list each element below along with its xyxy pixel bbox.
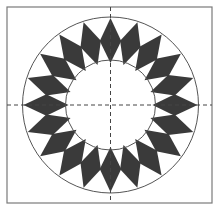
star-diagram bbox=[0, 0, 221, 208]
